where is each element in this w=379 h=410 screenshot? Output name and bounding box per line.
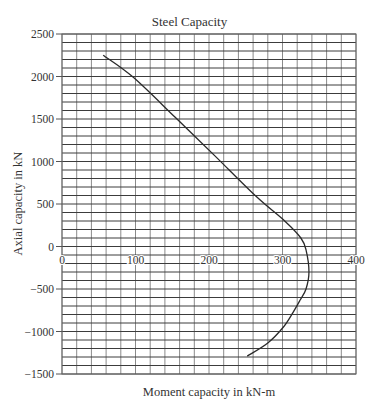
steel-capacity-curve bbox=[103, 55, 309, 356]
x-tick-label: 100 bbox=[127, 254, 145, 266]
x-axis-label: Moment capacity in kN-m bbox=[62, 385, 356, 400]
y-tick-label: 2500 bbox=[31, 28, 54, 40]
y-tick-label: 0 bbox=[48, 241, 54, 253]
y-axis-label: Axial capacity in kN bbox=[11, 124, 26, 284]
x-tick-label: 0 bbox=[59, 254, 65, 266]
y-tick-label: 500 bbox=[37, 198, 55, 210]
y-tick-label: −500 bbox=[30, 283, 54, 295]
chart-grid bbox=[62, 34, 356, 374]
x-tick-label: 300 bbox=[274, 254, 292, 266]
x-tick-label: 400 bbox=[347, 254, 365, 266]
y-tick-label: −1000 bbox=[25, 326, 55, 338]
y-tick-label: 1500 bbox=[31, 113, 54, 125]
y-tick-label: −1500 bbox=[25, 368, 55, 380]
x-tick-label: 200 bbox=[200, 254, 218, 266]
chart-plot: 25002000150010005000−500−1000−1500 01002… bbox=[0, 0, 379, 410]
y-axis-ticks: 25002000150010005000−500−1000−1500 bbox=[25, 28, 63, 380]
y-tick-label: 1000 bbox=[31, 156, 54, 168]
y-tick-label: 2000 bbox=[31, 71, 54, 83]
